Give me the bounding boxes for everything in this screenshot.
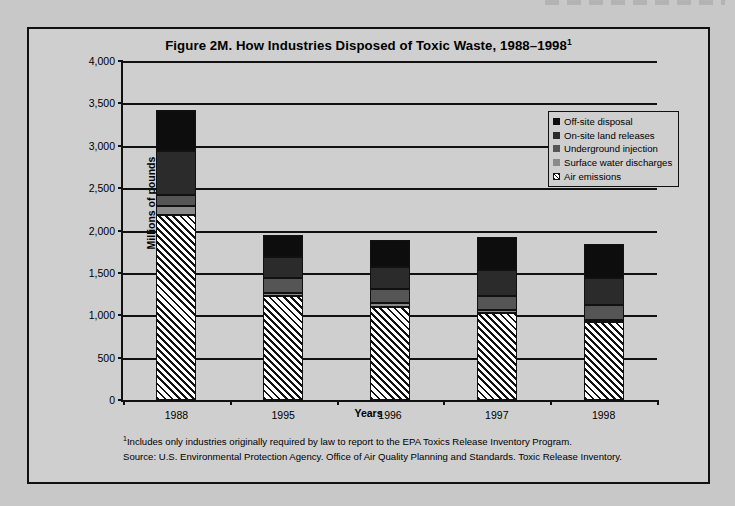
x-tick-mark [337, 400, 339, 405]
footnote-note-text: Includes only industries originally requ… [127, 436, 572, 447]
legend-label: Surface water discharges [564, 157, 672, 168]
chart-legend: Off-site disposalOn-site land releasesUn… [548, 111, 679, 187]
bar-segment[interactable] [156, 215, 196, 400]
y-tick-label: 3,500 [89, 97, 115, 109]
legend-label: Underground injection [564, 143, 658, 154]
bar-segment[interactable] [156, 151, 196, 195]
y-tick-label: 0 [109, 394, 115, 406]
chart-title-footnote-marker: 1 [567, 37, 572, 47]
bar-segment[interactable] [477, 313, 517, 400]
bar-segment[interactable] [477, 310, 517, 313]
y-tick-label: 2,500 [89, 182, 115, 194]
legend-label: Air emissions [564, 171, 621, 182]
legend-swatch-icon [553, 173, 560, 180]
bar-segment[interactable] [156, 195, 196, 206]
footnotes: 1Includes only industries originally req… [123, 431, 683, 464]
gridline [123, 188, 657, 190]
legend-row[interactable]: On-site land releases [553, 129, 672, 143]
bar-segment[interactable] [370, 240, 410, 267]
bar-segment[interactable] [584, 244, 624, 278]
bar-1998[interactable] [584, 244, 624, 400]
footnote-note: 1Includes only industries originally req… [123, 431, 683, 449]
y-tick-mark [118, 187, 123, 189]
chart-title-text: Figure 2M. How Industries Disposed of To… [165, 38, 567, 53]
y-tick-label: 500 [97, 352, 115, 364]
bar-segment[interactable] [263, 296, 303, 400]
bar-1996[interactable] [370, 240, 410, 400]
gridline [123, 103, 657, 105]
legend-swatch-icon [553, 132, 560, 139]
x-tick-mark [657, 400, 659, 405]
legend-label: On-site land releases [564, 130, 655, 141]
bar-segment[interactable] [263, 257, 303, 278]
x-tick-mark [123, 400, 125, 405]
y-tick-mark [118, 357, 123, 359]
page-header-strip [545, 0, 725, 5]
legend-row[interactable]: Off-site disposal [553, 115, 672, 129]
legend-row[interactable]: Surface water discharges [553, 156, 672, 170]
bar-segment[interactable] [584, 320, 624, 323]
bar-segment[interactable] [584, 278, 624, 305]
bar-segment[interactable] [263, 235, 303, 257]
bar-segment[interactable] [156, 206, 196, 215]
legend-swatch-icon [553, 118, 560, 125]
bar-1988[interactable] [156, 110, 196, 400]
y-tick-label: 4,000 [89, 55, 115, 67]
bar-segment[interactable] [370, 289, 410, 303]
x-axis-title: Years [29, 407, 708, 419]
y-tick-label: 2,000 [89, 225, 115, 237]
y-tick-mark [118, 60, 123, 62]
gridline [123, 231, 657, 233]
footnote-source: Source: U.S. Environmental Protection Ag… [123, 449, 683, 464]
bar-segment[interactable] [370, 303, 410, 306]
y-tick-mark [118, 145, 123, 147]
y-tick-label: 1,500 [89, 267, 115, 279]
y-tick-mark [118, 230, 123, 232]
x-tick-mark [550, 400, 552, 405]
bar-segment[interactable] [584, 322, 624, 400]
legend-row[interactable]: Underground injection [553, 142, 672, 156]
bar-segment[interactable] [477, 270, 517, 295]
y-tick-mark [118, 314, 123, 316]
legend-label: Off-site disposal [564, 116, 633, 127]
y-tick-mark [118, 272, 123, 274]
legend-swatch-icon [553, 145, 560, 152]
bar-segment[interactable] [263, 278, 303, 292]
x-tick-mark [230, 400, 232, 405]
x-tick-mark [443, 400, 445, 405]
figure-frame: Figure 2M. How Industries Disposed of To… [27, 27, 710, 484]
gridline [123, 61, 657, 63]
bar-segment[interactable] [370, 307, 410, 400]
y-tick-label: 3,000 [89, 140, 115, 152]
bar-1995[interactable] [263, 235, 303, 400]
bar-segment[interactable] [156, 110, 196, 151]
chart-title: Figure 2M. How Industries Disposed of To… [29, 37, 708, 53]
bar-segment[interactable] [584, 305, 624, 319]
legend-swatch-icon [553, 159, 560, 166]
bar-segment[interactable] [477, 296, 517, 310]
legend-row[interactable]: Air emissions [553, 169, 672, 183]
bar-segment[interactable] [477, 237, 517, 270]
bar-segment[interactable] [263, 293, 303, 296]
bar-1997[interactable] [477, 237, 517, 400]
y-tick-label: 1,000 [89, 309, 115, 321]
bar-segment[interactable] [370, 267, 410, 289]
y-tick-mark [118, 102, 123, 104]
